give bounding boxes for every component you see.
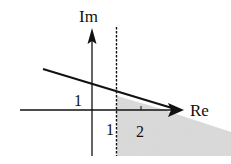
im-one-label: 1 bbox=[74, 92, 82, 109]
re-one-label: 1 bbox=[106, 121, 114, 138]
complex-plane-diagram: Im Re 1 1 2 bbox=[0, 0, 231, 164]
re-axis-label: Re bbox=[190, 101, 209, 120]
shaded-region bbox=[117, 96, 231, 156]
im-axis-label: Im bbox=[79, 7, 98, 26]
ray-line bbox=[43, 69, 172, 108]
re-two-label: 2 bbox=[136, 123, 144, 140]
